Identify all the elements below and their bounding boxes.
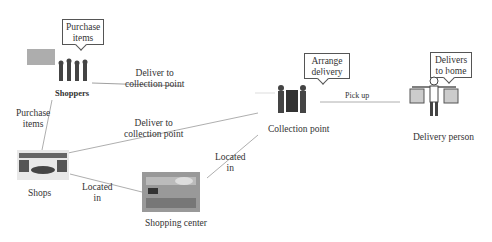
edge-label-line: collection point <box>124 129 183 140</box>
edge-label-line: Deliver to <box>125 68 184 79</box>
collection-point-icon <box>275 84 311 114</box>
node-label-shops: Shops <box>28 188 51 199</box>
shopping-center-icon <box>142 172 200 212</box>
shops-icon <box>17 150 69 180</box>
edge-label-line: Located <box>215 152 246 163</box>
callout-line: Arrange <box>308 56 346 67</box>
node-label-delivery-person: Delivery person <box>413 132 474 143</box>
node-label-collection-point: Collection point <box>268 124 329 135</box>
node-label-shopping-center: Shopping center <box>145 218 207 229</box>
callout-line: delivery <box>308 67 346 78</box>
callout-line: Delivers <box>434 55 468 66</box>
node-label-shoppers: Shoppers <box>55 88 89 99</box>
edge-label-pick-up: Pick up <box>345 90 369 101</box>
edge-label-line: Purchase <box>16 108 50 119</box>
edge-label-line: in <box>215 163 246 174</box>
callout-purchase-items: Purchase items <box>62 19 104 45</box>
edge-label-shops-cp: Deliver to collection point <box>124 118 183 140</box>
callout-line: Purchase <box>66 22 100 33</box>
edge-label-shoppers-cp: Deliver to collection point <box>125 68 184 90</box>
shoppers-icon <box>25 47 95 89</box>
edge-label-center-cp: Located in <box>215 152 246 174</box>
edge-label-line: Located <box>82 182 113 193</box>
edge-label-line: in <box>82 193 113 204</box>
edge-label-shops-center: Located in <box>82 182 113 204</box>
callout-arrange-delivery: Arrange delivery <box>304 53 350 79</box>
edge-label-line: items <box>16 119 50 130</box>
edge-label-purchase-items: Purchase items <box>16 108 50 130</box>
callout-line: items <box>66 33 100 44</box>
edge-label-line: collection point <box>125 79 184 90</box>
delivery-person-icon <box>408 75 460 121</box>
edge-label-line: Deliver to <box>124 118 183 129</box>
